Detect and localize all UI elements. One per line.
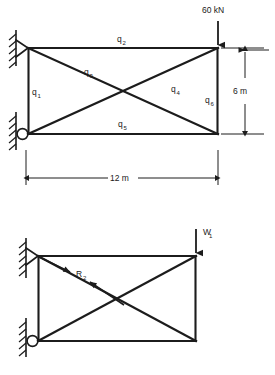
upper-dimension-height: 6 m [221,46,269,137]
upper-dimension-span: 12 m [24,150,221,185]
label-q5-base: q [118,119,123,129]
upper-roller-support [17,129,28,140]
upper-pin-support [16,40,28,57]
upper-span-label: 12 m [110,173,129,183]
upper-load-label: 60 kN [202,5,224,15]
label-q6-sub: 6 [211,101,215,107]
label-q1-sub: 1 [38,93,42,99]
upper-bottom-left-wall [9,112,16,150]
label-q4-sub: 4 [177,90,181,96]
lower-roller-support [27,336,38,347]
label-q2-base: q [117,34,122,44]
lower-load-label-sub: 1 [209,233,213,239]
lower-top-left-wall [19,238,26,278]
upper-height-label: 6 m [233,86,247,96]
upper-top-left-wall [9,30,16,68]
upper-truss-group: 60 kN q 1 q 2 q 3 q 4 q 5 q 6 6 m [9,5,269,185]
lower-reaction-label-base: R [76,269,82,279]
label-q3-base: q [84,67,89,77]
label-q6-base: q [205,95,210,105]
lower-bottom-left-wall [19,318,26,357]
label-q5-sub: 5 [124,125,128,131]
lower-reaction-label-sub: 2 [83,275,87,281]
label-q2-sub: 2 [123,40,127,46]
label-q1-base: q [32,87,37,97]
lower-truss-group: W 1 R 2 [19,227,213,357]
lower-pin-support [26,248,38,265]
truss-figure: 60 kN q 1 q 2 q 3 q 4 q 5 q 6 6 m [0,0,275,375]
label-q4-base: q [171,84,176,94]
